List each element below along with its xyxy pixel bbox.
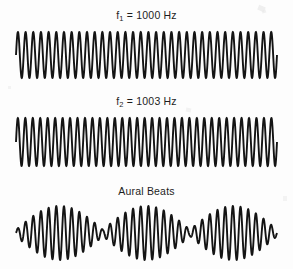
waveform-beats-svg <box>0 202 293 264</box>
waveform-tone-1 <box>0 29 293 81</box>
aural-beats-figure: f1 = 1000 Hz f2 = 1003 Hz Aural Beats <box>0 0 293 269</box>
panel-label-tone-2: f2 = 1003 Hz <box>0 95 293 107</box>
waveform-tone-2-path <box>16 118 277 166</box>
waveform-tone-2-svg <box>0 115 293 169</box>
waveform-tone-1-svg <box>0 29 293 81</box>
tone-1-label-subscript: 1 <box>119 14 123 23</box>
waveform-tone-2 <box>0 115 293 169</box>
tone-2-label-subscript: 2 <box>119 100 123 109</box>
waveform-tone-1-path <box>16 32 277 78</box>
tone-2-label-suffix: = 1003 Hz <box>124 95 177 107</box>
waveform-beats-path <box>16 206 277 260</box>
panel-label-beats: Aural Beats <box>0 185 293 197</box>
waveform-beats <box>0 202 293 264</box>
scan-artifact-speckle <box>8 86 11 89</box>
panel-label-tone-1: f1 = 1000 Hz <box>0 9 293 21</box>
scan-artifact-speckle <box>186 108 192 113</box>
tone-1-label-suffix: = 1000 Hz <box>124 9 177 21</box>
